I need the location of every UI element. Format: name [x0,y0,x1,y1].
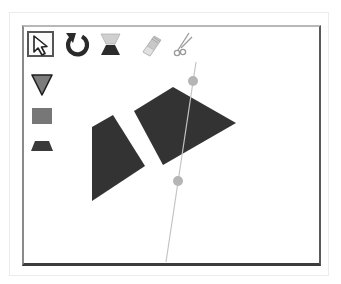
rotate-icon[interactable] [66,33,87,54]
scissors-icon[interactable] [174,33,192,56]
left-quadrilateral[interactable] [92,115,145,201]
square-icon[interactable] [32,108,52,124]
cut-line-handle-bottom[interactable] [173,176,183,186]
eraser-icon[interactable] [143,36,161,56]
scene [0,0,341,284]
trapezoid-icon[interactable] [31,141,53,151]
arrow-cursor-icon[interactable] [34,36,47,55]
cut-line-handle-top[interactable] [188,76,198,86]
triangle-icon[interactable] [32,75,52,95]
right-quadrilateral[interactable] [134,87,236,165]
flip-icon[interactable] [101,34,120,55]
